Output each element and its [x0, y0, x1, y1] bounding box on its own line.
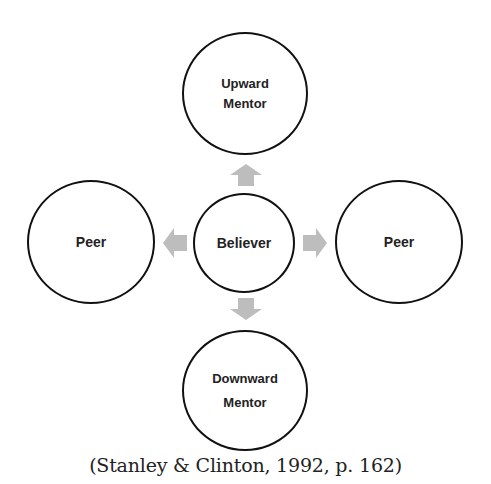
arrow-down-icon	[230, 298, 262, 320]
peer-right-label: Peer	[384, 232, 414, 252]
peer-left-label: Peer	[76, 232, 106, 252]
believer-node: Believer	[193, 193, 295, 293]
arrow-left-icon	[163, 228, 187, 258]
downward-mentor-node: Downward Mentor	[182, 330, 308, 451]
arrow-right-icon	[303, 228, 327, 258]
downward-mentor-label-line1: Downward	[212, 367, 278, 391]
peer-right-node: Peer	[335, 180, 463, 304]
citation-caption: (Stanley & Clinton, 1992, p. 162)	[0, 454, 491, 476]
upward-mentor-label-line1: Upward	[221, 74, 269, 94]
peer-left-node: Peer	[27, 180, 155, 304]
upward-mentor-node: Upward Mentor	[182, 32, 308, 155]
downward-mentor-label-line2: Mentor	[223, 391, 266, 415]
believer-label: Believer	[217, 233, 271, 253]
upward-mentor-label-line2: Mentor	[223, 94, 266, 114]
arrow-up-icon	[230, 164, 262, 186]
